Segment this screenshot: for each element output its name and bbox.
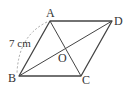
vertex-label-a: A xyxy=(46,6,55,20)
center-label-o: O xyxy=(58,51,67,65)
side-length-label: 7 cm xyxy=(9,37,31,49)
rhombus-diagram: A D B C O 7 cm xyxy=(0,0,131,86)
vertex-label-c: C xyxy=(82,73,90,86)
vertex-label-d: D xyxy=(114,14,123,28)
vertex-label-b: B xyxy=(8,71,16,85)
diagonal-bd xyxy=(19,21,112,76)
